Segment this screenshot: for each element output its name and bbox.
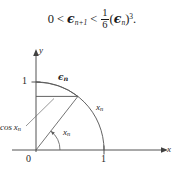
epsilon-arc-label: ϵn [58,72,68,83]
formula-relation-2: < [90,12,97,26]
y-tick-label-one: 1 [22,75,27,86]
epsilon-arc [36,82,78,96]
x-tick-label-one: 1 [101,153,106,164]
formula-period: . [133,12,136,26]
y-axis-label: y [39,45,43,55]
x-axis-label: x [167,144,171,154]
formula-fraction: 16 [101,8,108,30]
cosine-leader-line [26,99,54,127]
unit-circle-diagram: x y 0 1 1 ϵn xn xn cos xn [0,40,184,187]
formula-epsilon-next-subscript: n+1 [75,18,88,27]
angle-label: xn [63,127,70,137]
unit-circle-arc [36,82,104,150]
diagram-canvas [0,40,184,187]
formula-lhs: 0 [48,12,54,26]
formula-relation-1: < [57,12,64,26]
radius-label: xn [96,102,103,112]
y-axis-arrowhead [33,49,39,56]
origin-label: 0 [26,153,31,164]
fraction-numerator: 1 [101,8,108,19]
fraction-denominator: 6 [101,19,108,31]
cosine-label: cos xn [0,122,21,132]
formula-epsilon-next: ϵ [67,11,75,26]
radius-segment [36,96,78,150]
inequality-formula: 0<ϵn+1<16(ϵn)3. [0,8,184,30]
